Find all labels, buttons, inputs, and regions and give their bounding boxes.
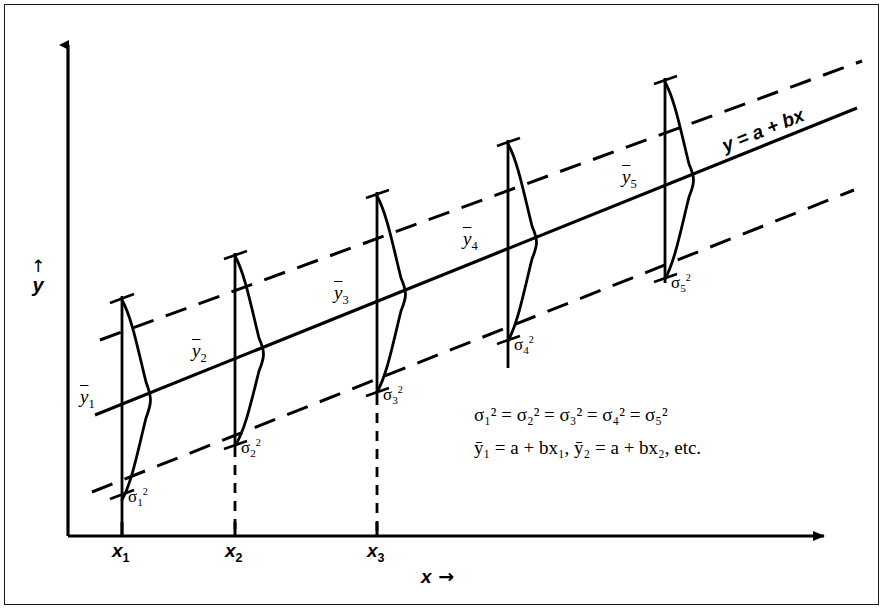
tick-letter: x (225, 540, 236, 561)
variance-label-4: σ42 (514, 334, 534, 356)
mean-label-1: y1 (80, 386, 95, 412)
x-tick-label-x1: x1 (112, 540, 130, 565)
distribution-2 (224, 251, 264, 536)
sigma-sub: 2 (250, 447, 256, 459)
mean-sub: 3 (342, 293, 348, 307)
tick-sub: 1 (123, 551, 130, 565)
sigma-letter: σ (128, 487, 137, 506)
sigma-sup: 2 (256, 437, 261, 448)
sigma-sup: 2 (686, 272, 691, 283)
tick-sub: 3 (378, 551, 385, 565)
sigma-letter: σ (671, 273, 680, 292)
diagram-canvas (0, 0, 885, 611)
sigma-sub: 4 (523, 344, 529, 356)
distribution-5 (654, 76, 694, 283)
sigma-sub: 3 (392, 394, 398, 406)
sigma-sup: 2 (143, 486, 148, 497)
tick-sub: 2 (236, 551, 243, 565)
annotation-mean-relation: ȳ₁ = a + bx₁, ȳ₂ = a + bx₂, etc. (474, 437, 701, 459)
mean-sub: 4 (471, 239, 477, 253)
sigma-sub: 5 (680, 282, 686, 294)
y-axis-label-text: y (23, 275, 53, 295)
x-axis-label: x → (421, 565, 454, 588)
sigma-letter: σ (241, 438, 250, 457)
mean-sub: 1 (88, 397, 94, 411)
mean-label-5: y5 (622, 166, 637, 192)
sigma-letter: σ (514, 335, 523, 354)
mean-label-2: y2 (192, 340, 207, 366)
tick-letter: x (367, 540, 378, 561)
mean-label-4: y4 (463, 228, 478, 254)
x-tick-label-x2: x2 (225, 540, 243, 565)
y-axis-arrow-icon: ↑ (23, 258, 53, 275)
sigma-sup: 2 (529, 334, 534, 345)
upper-bound-line (100, 61, 862, 340)
x-tick-label-x3: x3 (367, 540, 385, 565)
x-axis-label-text: x (421, 566, 432, 587)
regression-line (95, 108, 857, 415)
tick-letter: x (112, 540, 123, 561)
axes-group (68, 45, 824, 536)
x-axis-arrow-icon: → (438, 565, 454, 587)
y-axis-label: ↑ y (23, 258, 53, 295)
mean-sub: 2 (200, 351, 206, 365)
sigma-sup: 2 (398, 384, 403, 395)
variance-label-5: σ52 (671, 272, 691, 294)
mean-sub: 5 (630, 177, 636, 191)
sigma-sub: 1 (137, 496, 143, 508)
regression-assumptions-figure: ↑ y x → x1 x2 x3 y1 y2 y3 y4 y5 σ12 σ22 … (0, 0, 885, 611)
variance-label-3: σ32 (383, 384, 403, 406)
variance-label-1: σ12 (128, 486, 148, 508)
sigma-letter: σ (383, 385, 392, 404)
variance-label-2: σ22 (241, 437, 261, 459)
annotation-variance-equality: σ₁² = σ₂² = σ₃² = σ₄² = σ₅² (474, 404, 668, 426)
mean-label-3: y3 (334, 282, 349, 308)
x-axis-ticks (122, 522, 377, 536)
